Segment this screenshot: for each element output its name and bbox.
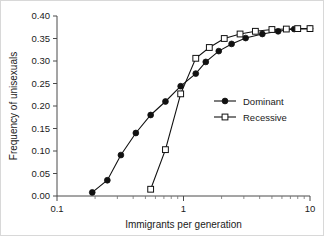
x-tick-label: 1 <box>181 203 186 214</box>
data-point-dominant <box>229 41 235 47</box>
y-tick-label: 0.25 <box>32 78 51 89</box>
x-axis-title: Immigrants per generation <box>125 219 242 230</box>
x-tick-label: 0.1 <box>50 203 63 214</box>
data-point-dominant <box>203 59 209 65</box>
y-tick-label: 0.20 <box>32 100 51 111</box>
x-tick-label: 10 <box>305 203 316 214</box>
data-point-dominant <box>133 130 139 136</box>
data-point-recessive <box>237 31 243 37</box>
y-tick-label: 0.10 <box>32 145 51 156</box>
y-tick-label: 0.05 <box>32 168 51 179</box>
data-point-dominant <box>243 35 249 41</box>
data-point-recessive <box>193 55 199 61</box>
data-point-dominant <box>216 48 222 54</box>
data-point-recessive <box>295 26 301 32</box>
data-point-recessive <box>252 28 258 34</box>
data-point-recessive <box>283 26 289 32</box>
data-point-dominant <box>163 99 169 105</box>
y-tick-label: 0.35 <box>32 33 51 44</box>
data-point-dominant <box>193 71 199 77</box>
series-line-recessive <box>151 29 310 190</box>
data-point-recessive <box>269 27 275 33</box>
y-tick-label: 0.00 <box>32 190 51 201</box>
legend-marker-recessive <box>222 114 228 120</box>
data-point-dominant <box>148 112 154 118</box>
data-point-recessive <box>307 26 313 32</box>
legend-label-dominant: Dominant <box>243 96 284 107</box>
data-point-dominant <box>259 31 265 37</box>
data-point-dominant <box>118 152 124 158</box>
series-line-dominant <box>92 29 310 193</box>
line-chart: 0.000.050.100.150.200.250.300.350.400.11… <box>1 1 324 236</box>
y-axis-title: Frequency of unisexuals <box>8 52 19 160</box>
data-point-dominant <box>89 190 95 196</box>
y-tick-label: 0.40 <box>32 10 51 21</box>
y-tick-label: 0.30 <box>32 55 51 66</box>
chart-figure: 0.000.050.100.150.200.250.300.350.400.11… <box>0 0 324 236</box>
data-point-recessive <box>206 45 212 51</box>
data-point-recessive <box>221 36 227 42</box>
y-tick-label: 0.15 <box>32 123 51 134</box>
data-point-recessive <box>163 147 169 153</box>
data-point-recessive <box>178 91 184 97</box>
legend-label-recessive: Recessive <box>243 112 287 123</box>
data-point-dominant <box>104 177 110 183</box>
data-point-recessive <box>148 186 154 192</box>
legend-marker-dominant <box>222 98 228 104</box>
